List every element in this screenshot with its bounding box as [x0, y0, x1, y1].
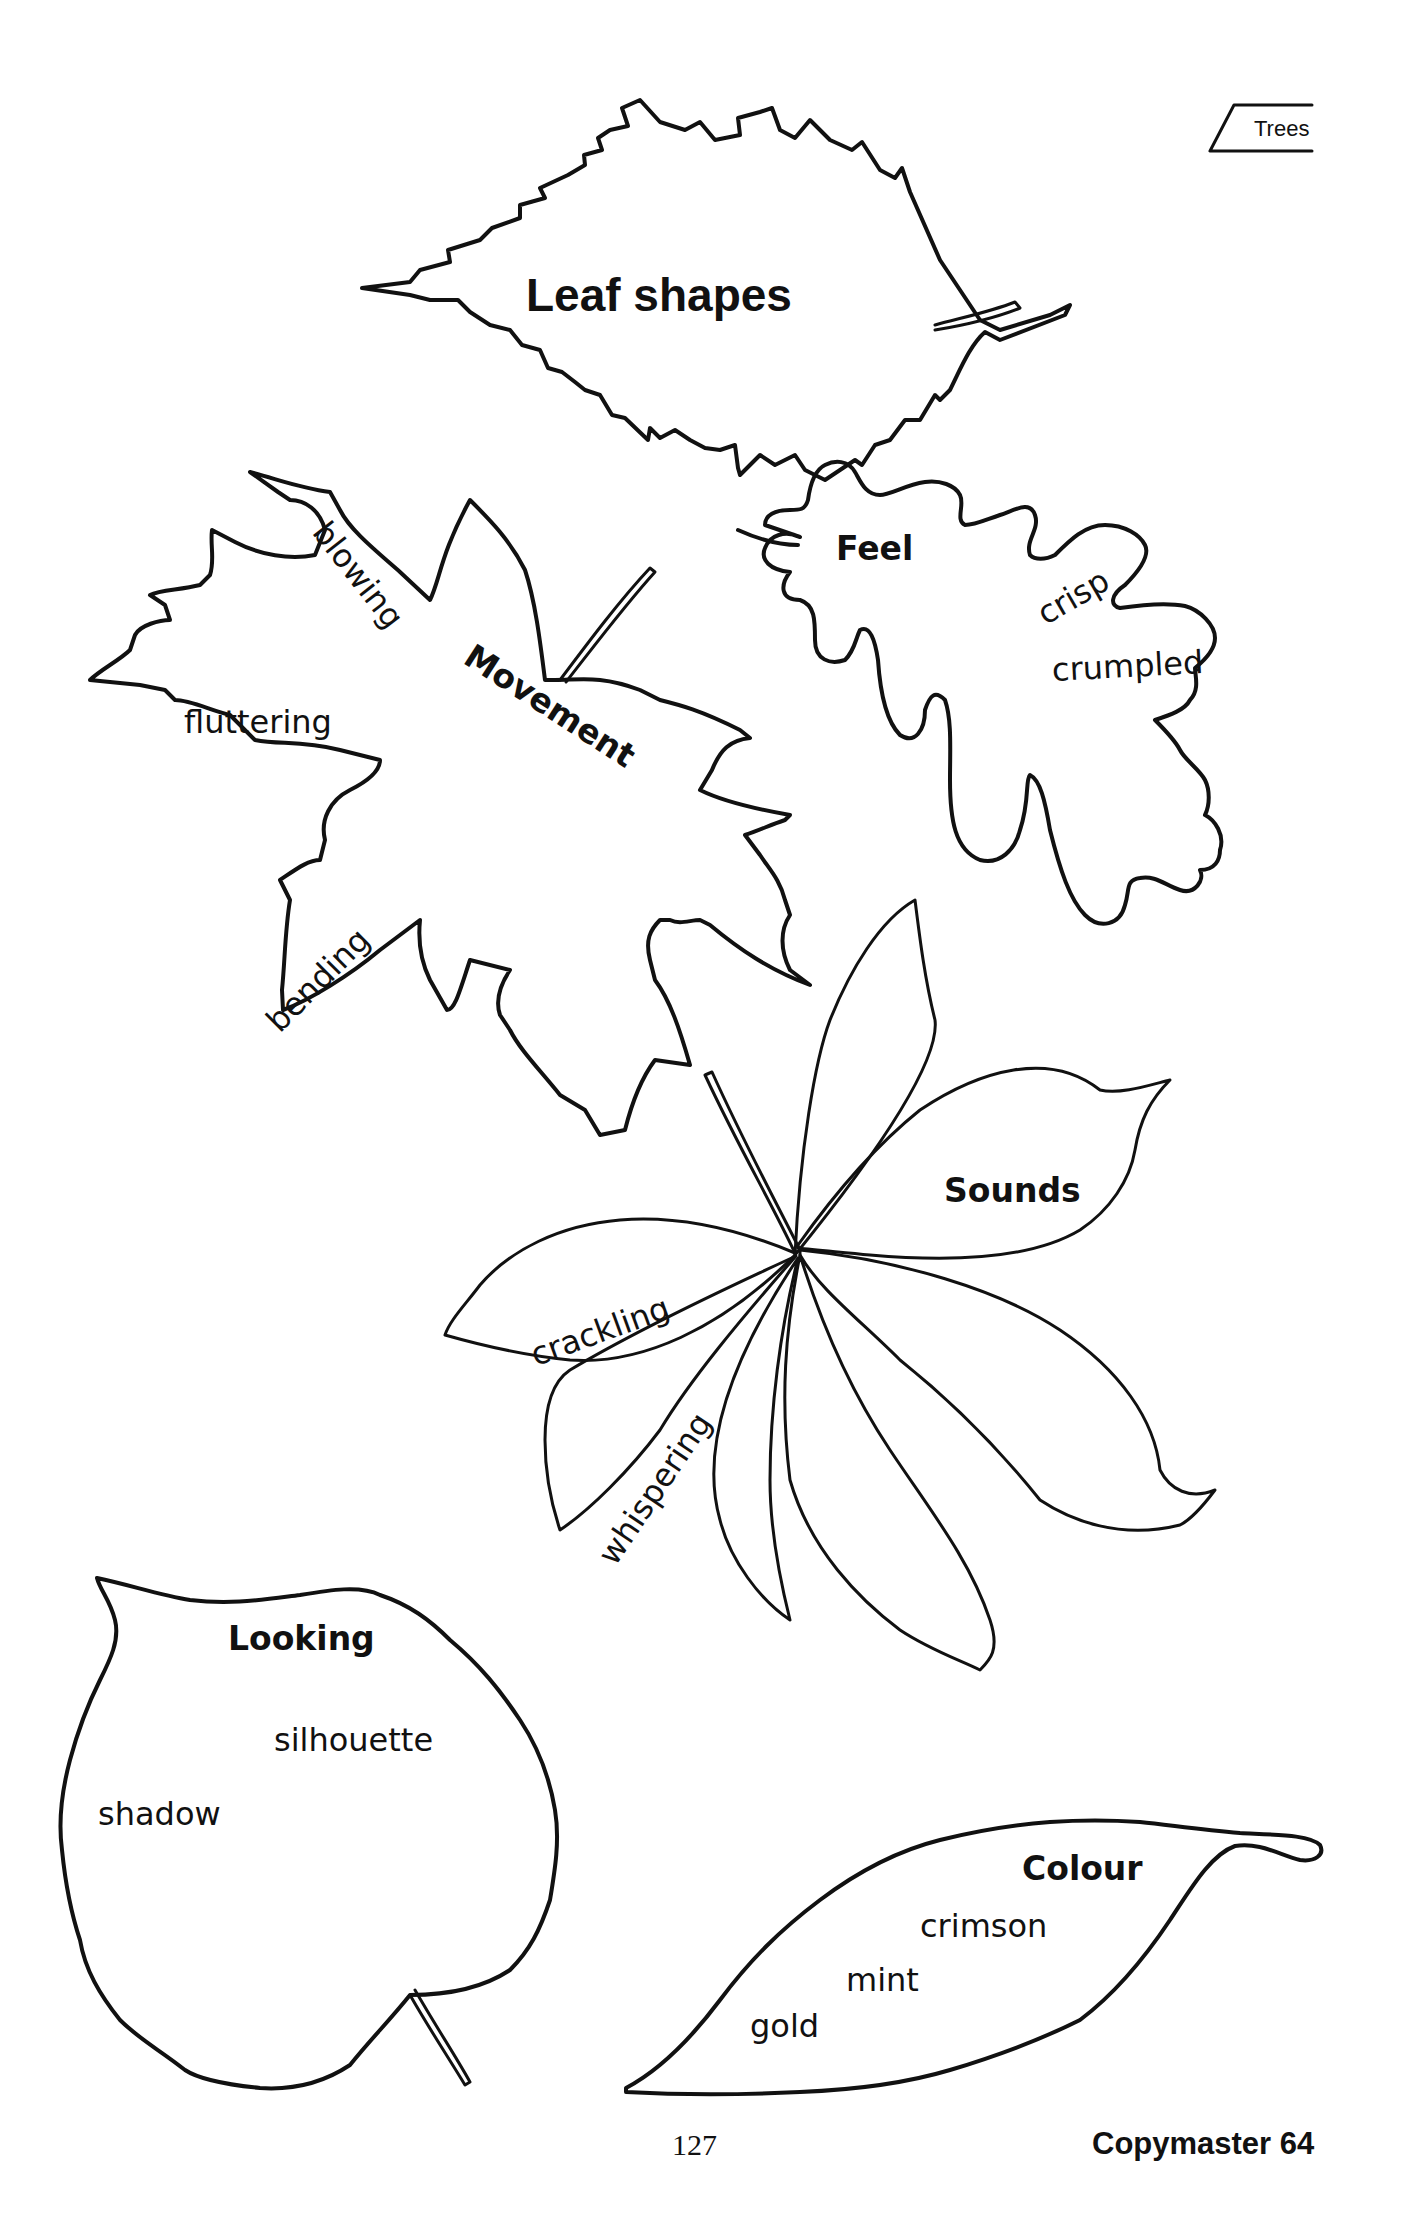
sounds-leaf-outline — [445, 900, 1215, 1670]
feel-heading: Feel — [836, 532, 913, 565]
movement-word-fluttering: fluttering — [184, 706, 332, 738]
feel-leaf-outline — [764, 462, 1222, 924]
colour-word-gold: gold — [750, 2010, 819, 2042]
colour-word-mint: mint — [846, 1964, 919, 1996]
feel-word-crumpled: crumpled — [1051, 646, 1204, 686]
looking-heading: Looking — [228, 1622, 375, 1655]
movement-leaf-stem — [560, 568, 655, 682]
movement-leaf-outline — [90, 472, 810, 1135]
looking-word-shadow: shadow — [98, 1798, 221, 1830]
looking-leaf-stem — [410, 1990, 470, 2085]
colour-leaf-outline — [626, 1821, 1321, 2095]
leaf-illustrations — [0, 0, 1419, 2233]
copymaster-label: Copymaster 64 — [1092, 2126, 1314, 2162]
section-tab-label: Trees — [1254, 116, 1309, 142]
sounds-heading: Sounds — [944, 1174, 1081, 1207]
page-title: Leaf shapes — [526, 272, 792, 318]
colour-word-crimson: crimson — [920, 1910, 1047, 1942]
looking-word-silhouette: silhouette — [274, 1724, 433, 1756]
colour-heading: Colour — [1022, 1852, 1143, 1885]
page-number: 127 — [672, 2128, 717, 2162]
